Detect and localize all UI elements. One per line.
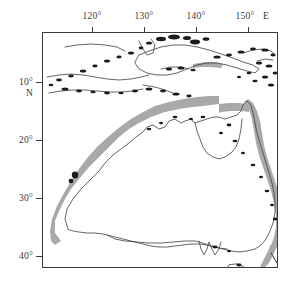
lat-tick-label-40: 40° [2,251,33,261]
lat-hemisphere-label: N [2,88,33,98]
lon-tick-label-130: 130° [128,11,160,21]
lon-tick-label-120: 120° [76,11,108,21]
lat-tick-label-10: 10° [2,77,33,87]
map-canvas [43,33,277,267]
lat-tick-label-30: 30° [2,193,33,203]
lon-tick-label-150: 150° [230,11,260,21]
lat-tick-label-20: 20° [2,135,33,145]
shaded-range-band-layer [50,62,277,267]
map-plot-frame [42,32,278,268]
lon-axis-unit-east: E [263,11,269,21]
lon-tick-label-140: 140° [180,11,212,21]
distribution-map-figure: 120° 130° 140° 150° E 10° N 20° 30° 40° [0,0,295,286]
